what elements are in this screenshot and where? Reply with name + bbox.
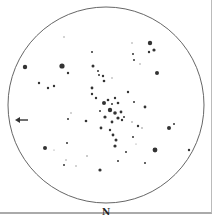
star [117, 102, 120, 105]
star [59, 63, 64, 68]
star [120, 111, 123, 114]
star [113, 144, 116, 147]
star [141, 127, 143, 129]
star [152, 48, 155, 51]
star [111, 103, 113, 105]
star [111, 121, 114, 124]
star [107, 99, 110, 102]
star [91, 87, 94, 90]
star [113, 111, 117, 115]
star [108, 108, 112, 112]
star [121, 119, 123, 121]
star [99, 110, 101, 112]
star [127, 91, 129, 93]
star [117, 160, 119, 162]
star [67, 118, 69, 120]
star [23, 65, 27, 69]
star [67, 72, 69, 74]
star [116, 116, 119, 119]
star [112, 134, 115, 137]
star [53, 149, 54, 150]
star [70, 112, 71, 113]
star [173, 123, 175, 125]
star [115, 139, 118, 142]
star [123, 116, 125, 118]
star [91, 93, 93, 95]
star [86, 155, 88, 157]
direction-arrow-icon [15, 117, 28, 123]
star [109, 129, 111, 131]
star [131, 121, 133, 123]
field-of-view-circle [8, 7, 204, 203]
star-field: N [0, 0, 214, 223]
star [100, 127, 103, 130]
stars-group [23, 36, 190, 171]
star [131, 42, 132, 43]
star [102, 101, 106, 105]
star [47, 87, 49, 89]
star [63, 36, 64, 37]
star [38, 82, 40, 84]
star [53, 85, 55, 87]
star [144, 106, 147, 109]
star [66, 142, 68, 144]
star [111, 77, 112, 78]
star [148, 51, 150, 53]
star [133, 59, 135, 61]
star [43, 146, 47, 150]
star [144, 162, 146, 164]
star [95, 97, 97, 99]
star [85, 120, 88, 123]
star [102, 75, 104, 77]
star [155, 71, 159, 75]
north-label: N [102, 207, 110, 217]
star [125, 151, 127, 153]
star [103, 80, 106, 83]
star [153, 148, 158, 153]
sketch-frame: N [0, 0, 214, 223]
star [133, 101, 135, 103]
star [103, 115, 106, 118]
star [188, 149, 190, 151]
star [137, 125, 139, 127]
star [92, 65, 95, 68]
star [139, 63, 140, 64]
star [98, 74, 100, 76]
star [132, 53, 134, 55]
star [114, 97, 116, 99]
star [97, 70, 99, 72]
star [98, 168, 101, 171]
star [75, 165, 76, 166]
star [167, 126, 171, 130]
star [135, 143, 136, 144]
star [148, 41, 152, 45]
star [65, 159, 66, 160]
star [91, 51, 93, 53]
star [132, 136, 134, 138]
star [63, 164, 65, 166]
